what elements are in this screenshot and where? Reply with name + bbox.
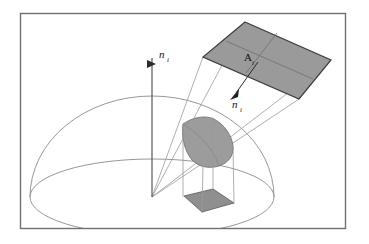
label-area-subscript: i [252,59,254,67]
label-normal-up-subscript: i [167,56,169,64]
solid-angle-diagram: n i A i n i [0,0,369,244]
label-area-base: A [244,51,252,63]
label-normal-up-base: n [159,48,165,60]
label-normal-patch-subscript: i [240,106,242,114]
figure-page: n i A i n i [0,0,369,244]
label-normal-patch-base: n [232,98,238,110]
